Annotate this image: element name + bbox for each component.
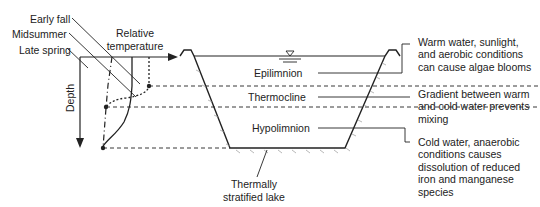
label-late-spring: Late spring xyxy=(19,44,71,57)
early-fall-curve xyxy=(106,57,149,107)
note-hypolimnion: Cold water, anaerobic conditions causes … xyxy=(418,136,520,198)
label-midsummer: Midsummer xyxy=(12,28,67,41)
layer-thermocline: Thermocline xyxy=(248,91,306,104)
note-epilimnion: Warm water, sunlight, and aerobic condit… xyxy=(418,36,531,73)
note-thermocline: Gradient between warm and cold water pre… xyxy=(418,88,529,125)
layer-epilimnion: Epilimnion xyxy=(254,67,302,80)
lake-label: Thermally stratified lake xyxy=(214,178,294,203)
axis-label-relative-temperature: Relative temperature xyxy=(103,27,167,52)
water-level-icon xyxy=(286,51,294,56)
arrow-down-icon xyxy=(76,138,84,148)
midsummer-curve xyxy=(102,57,132,148)
arrow-right-icon xyxy=(168,53,178,61)
layer-hypolimnion: Hypolimnion xyxy=(252,122,310,135)
label-early-fall: Early fall xyxy=(30,13,70,26)
axis-label-depth: Depth xyxy=(64,84,76,112)
